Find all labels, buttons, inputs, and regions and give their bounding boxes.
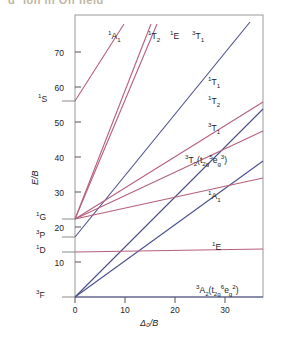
y-axis-title: E/B — [30, 170, 40, 185]
term-label-top-1T2: 1T2 — [148, 32, 160, 41]
y-axis-title-text: E/B — [30, 170, 40, 185]
x-axis-ticks — [75, 297, 225, 303]
ytick-label-40: 40 — [46, 153, 64, 163]
term-label-top-1E: 1E — [170, 32, 179, 41]
term-label-top-3T1: 3T1 — [192, 32, 204, 41]
ytick-label-10: 10 — [46, 258, 64, 268]
tanabe-sugano-figure: d² ion in Oh field — [0, 0, 281, 349]
ground-configuration-label: 3A2(t2g6eg2) — [196, 286, 239, 295]
term-label-right-1A1: 1A1 — [208, 192, 221, 201]
ytick-label-50: 50 — [46, 118, 64, 128]
term-label-right-1T2: 1T2 — [208, 97, 220, 106]
xtick-label-20: 20 — [168, 305, 182, 315]
xtick-label-0: 0 — [68, 305, 82, 315]
term-label-right-1T1: 1T1 — [208, 78, 220, 87]
ytick-label-30: 30 — [46, 188, 64, 198]
term-label-right-3T1: 3T1 — [208, 124, 220, 133]
ytick-label-60: 60 — [46, 83, 64, 93]
xtick-label-30: 30 — [218, 305, 232, 315]
free-ion-label-1D: 1D — [36, 246, 46, 255]
x-axis-title: Δ₀/B — [140, 318, 158, 328]
free-ion-label-1G: 1G — [36, 213, 46, 222]
ytick-label-70: 70 — [46, 48, 64, 58]
free-ion-label-3P: 3P — [36, 231, 45, 240]
free-ion-label-1S: 1S — [38, 95, 47, 104]
term-label-top-1A1: 1A1 — [108, 32, 121, 41]
free-ion-label-3F: 3F — [36, 291, 45, 300]
ytick-label-20: 20 — [46, 223, 64, 233]
term-label-right-3T2-config: 3T2(t2g5eg3) — [185, 156, 227, 165]
xtick-label-10: 10 — [118, 305, 132, 315]
term-label-right-1E: 1E — [212, 243, 221, 252]
x-axis-title-text: Δ₀/B — [140, 318, 158, 328]
